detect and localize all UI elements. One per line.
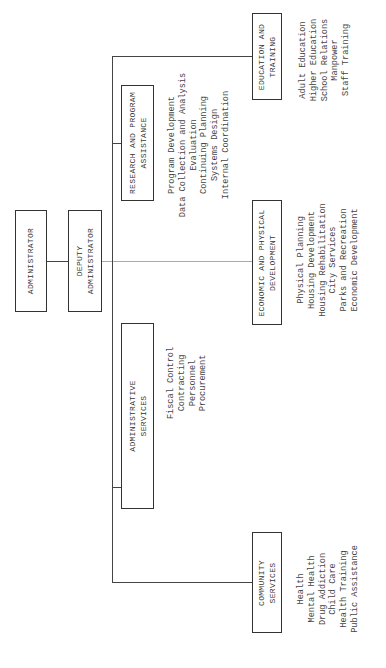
list-item: Data Collection and Analysis — [177, 73, 188, 217]
deputy-label-line2: ADMINISTRATOR — [85, 228, 96, 294]
community-items: Health Mental Health Drug Addiction Chil… — [294, 540, 362, 638]
community-label-line2: SERVICES — [267, 560, 278, 606]
research-label-line1: RESEARCH AND PROGRAM — [127, 92, 138, 194]
deputy-administrator-box: DEPUTY ADMINISTRATOR — [68, 210, 102, 312]
admin-services-label-line1: ADMINISTRATIVE — [127, 380, 138, 451]
list-item: Health — [296, 545, 307, 633]
education-items: Adult Education Higher Education School … — [296, 20, 354, 100]
administrator-label: ADMINISTRATOR — [26, 228, 37, 294]
list-item: Parks and Recreation — [339, 203, 350, 316]
research-label-line2: ASSISTANCE — [138, 92, 149, 194]
list-item: Mental Health — [306, 545, 317, 633]
community-services-box: COMMUNITY SERVICES — [252, 532, 282, 633]
list-item: Public Assistance — [350, 545, 361, 633]
education-label-line1: EDUCATION AND — [257, 23, 268, 89]
list-item: Internal Coordination — [221, 73, 232, 217]
education-label-line2: TRAINING — [267, 23, 278, 89]
deputy-label-line1: DEPUTY — [75, 228, 86, 294]
list-item: Adult Education — [298, 19, 309, 102]
economic-items: Physical Planning Housing Development Ho… — [294, 205, 362, 315]
list-item: Child Care — [328, 545, 339, 633]
list-item: City Services — [328, 203, 339, 316]
list-item: Economic Development — [350, 203, 361, 316]
list-item: Higher Education — [309, 19, 320, 102]
list-item: Systems Design — [210, 73, 221, 217]
list-item: Fiscal Control — [166, 346, 177, 418]
list-item: Drug Addiction — [317, 545, 328, 633]
connector-trunk — [112, 56, 113, 583]
list-item: Housing Development — [306, 203, 317, 316]
education-training-box: EDUCATION AND TRAINING — [252, 13, 282, 100]
economic-physical-box: ECONOMIC AND PHYSICAL DEVELOPMENT — [252, 200, 282, 325]
list-item: Housing Rehabilitation — [317, 203, 328, 316]
list-item: Continuing Planning — [199, 73, 210, 217]
research-program-box: RESEARCH AND PROGRAM ASSISTANCE — [121, 85, 154, 201]
list-item: Contracting — [177, 346, 188, 418]
list-item: Evaluation — [188, 73, 199, 217]
list-item: Manpower — [330, 19, 341, 102]
list-item: Staff Training — [341, 19, 352, 102]
list-item: School Relations — [320, 19, 331, 102]
list-item: Personnel — [188, 346, 199, 418]
connector-education — [112, 56, 252, 57]
connector-deputy-economic — [101, 261, 252, 262]
list-item: Procurement — [199, 346, 210, 418]
connector-research — [112, 143, 121, 144]
connector-admin-deputy — [46, 261, 68, 262]
economic-label-line2: DEVELOPMENT — [267, 209, 278, 316]
administrator-box: ADMINISTRATOR — [15, 210, 47, 312]
list-item: Health Training — [339, 545, 350, 633]
list-item: Physical Planning — [296, 203, 307, 316]
list-item: Program Development — [167, 73, 178, 217]
admin-services-items: Fiscal Control Contracting Personnel Pro… — [165, 345, 211, 420]
economic-label-line1: ECONOMIC AND PHYSICAL — [257, 209, 268, 316]
administrative-services-box: ADMINISTRATIVE SERVICES — [121, 323, 154, 509]
connector-admin-services — [112, 487, 121, 488]
community-label-line1: COMMUNITY — [257, 560, 268, 606]
research-items: Program Development Data Collection and … — [165, 85, 233, 205]
connector-community — [112, 582, 252, 583]
admin-services-label-line2: SERVICES — [138, 380, 149, 451]
